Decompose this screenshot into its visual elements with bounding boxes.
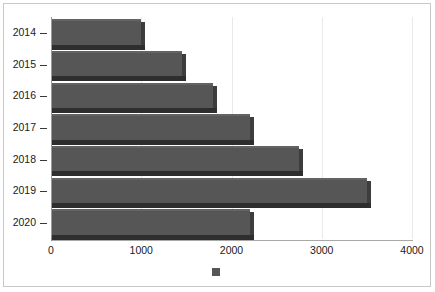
bar-face [51,19,141,44]
bar [51,178,367,203]
y-axis-tick-label: 2018 [13,153,36,165]
bar-face [51,146,299,171]
y-axis-tick-mark [40,96,47,97]
bar-top-shade [51,83,213,85]
y-axis-labels: 2014201520162017201820192020 [0,17,50,239]
bar [51,83,213,108]
bar [51,209,250,234]
bar-face [51,83,213,108]
bar-top-shade [51,19,141,21]
bar-bottom-face [51,203,371,208]
y-axis-tick-mark [40,223,47,224]
y-axis-tick-mark [40,33,47,34]
x-axis-tick-label: 1000 [130,244,153,256]
x-axis-tick-label: 3000 [310,244,333,256]
bar-bottom-face [51,108,217,113]
x-axis-tick-label: 2000 [220,244,243,256]
bar-top-shade [51,209,250,211]
y-axis-tick-label: 2019 [13,184,36,196]
x-axis-tick-label: 4000 [400,244,423,256]
bar-chart: 2014201520162017201820192020 01000200030… [0,0,435,292]
bar-top-shade [51,114,250,116]
bar [51,114,250,139]
y-axis-tick-label: 2020 [13,216,36,228]
y-axis-tick-mark [40,65,47,66]
bar-face [51,178,367,203]
bar-bottom-face [51,140,254,145]
bar-bottom-face [51,76,186,81]
bar [51,51,182,76]
y-axis-tick-label: 2016 [13,89,36,101]
bar-face [51,209,250,234]
bar [51,19,141,44]
plot-area [51,17,412,239]
x-axis-line [51,240,413,241]
legend-swatch-icon [212,268,220,276]
chart-legend [0,262,435,280]
bar-face [51,114,250,139]
bar-top-shade [51,178,367,180]
y-axis-tick-mark [40,191,47,192]
x-axis-tick-mark [51,236,52,241]
x-axis-tick-label: 0 [48,244,54,256]
bar [51,146,299,171]
gridline [412,17,413,239]
bar-top-shade [51,146,299,148]
bar-bottom-face [51,171,303,176]
bar-face [51,51,182,76]
y-axis-line [51,17,52,241]
bar-bottom-face [51,45,145,50]
y-axis-tick-label: 2015 [13,58,36,70]
y-axis-tick-label: 2017 [13,121,36,133]
y-axis-tick-label: 2014 [13,26,36,38]
bar-top-shade [51,51,182,53]
y-axis-tick-mark [40,128,47,129]
y-axis-tick-mark [40,160,47,161]
